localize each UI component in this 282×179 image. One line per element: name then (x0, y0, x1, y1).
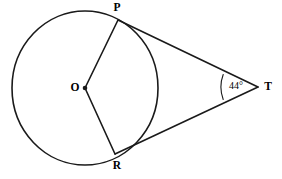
segment-rt-tangent (115, 87, 258, 154)
label-point-t: T (264, 80, 272, 92)
center-point-dot (83, 86, 88, 91)
angle-arc-at-t (221, 75, 223, 100)
label-point-p: P (113, 1, 120, 13)
segment-op-radius (85, 20, 118, 88)
geometry-diagram-canvas: O P R T 44° (0, 0, 282, 179)
label-angle-measure: 44° (229, 80, 243, 91)
circle-tangent-figure: O P R T 44° (0, 0, 282, 179)
label-point-r: R (113, 159, 122, 171)
segment-pt-tangent (118, 20, 258, 87)
label-point-o: O (71, 81, 80, 93)
segment-or-radius (85, 88, 115, 154)
